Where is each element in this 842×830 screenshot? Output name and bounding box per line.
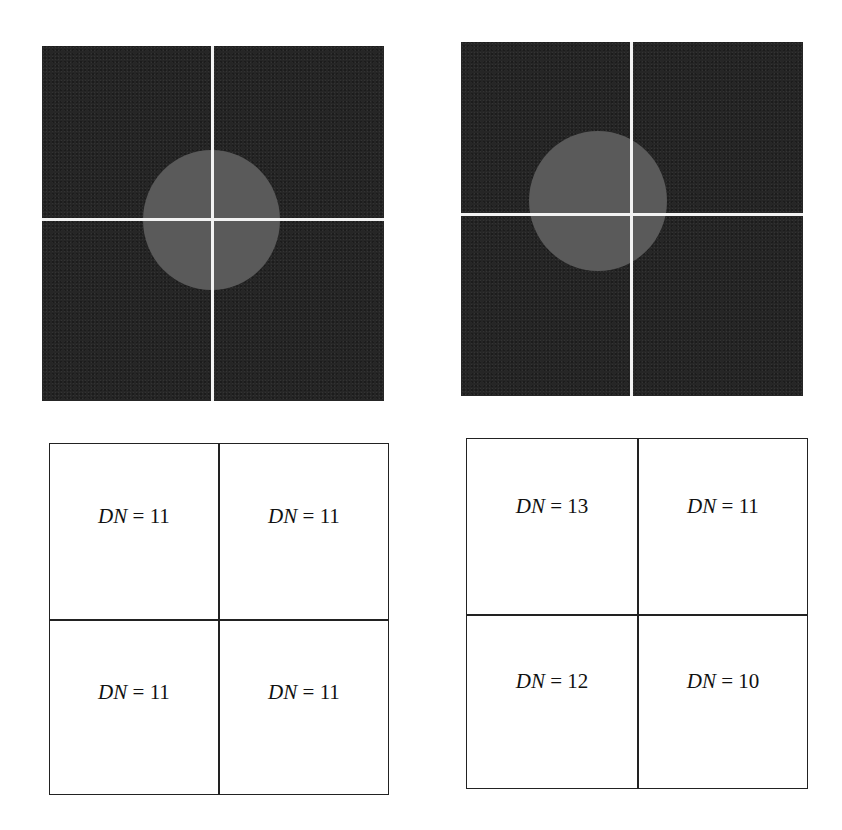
dn-value: 13 xyxy=(567,494,588,519)
dn-cell-bottom-right: DN = 11 xyxy=(220,621,388,793)
dn-cell-top-left: DN = 11 xyxy=(50,444,218,619)
dn-value: 11 xyxy=(739,494,759,519)
dn-value: 11 xyxy=(320,680,340,705)
dn-value: 11 xyxy=(150,680,170,705)
dn-value: 10 xyxy=(738,669,759,694)
dn-value: 11 xyxy=(320,504,340,529)
dn-value: 12 xyxy=(567,669,588,694)
dn-grid-offset: DN = 13 DN = 11 DN = 12 DN = 10 xyxy=(466,438,808,789)
dn-cell-bottom-right: DN = 10 xyxy=(639,616,807,787)
dn-value: 11 xyxy=(150,504,170,529)
dn-cell-top-left: DN = 13 xyxy=(467,439,637,614)
bright-disc xyxy=(529,131,667,271)
image-disc-offset xyxy=(461,42,803,396)
dn-cell-top-right: DN = 11 xyxy=(639,439,807,614)
pixel-boundary-vertical xyxy=(211,46,214,401)
image-disc-centered xyxy=(42,46,384,401)
pixel-boundary-vertical xyxy=(630,42,633,396)
dn-grid-centered: DN = 11 DN = 11 DN = 11 DN = 11 xyxy=(49,443,389,795)
dn-cell-bottom-left: DN = 11 xyxy=(50,621,218,793)
dn-cell-bottom-left: DN = 12 xyxy=(467,616,637,787)
dn-cell-top-right: DN = 11 xyxy=(220,444,388,619)
